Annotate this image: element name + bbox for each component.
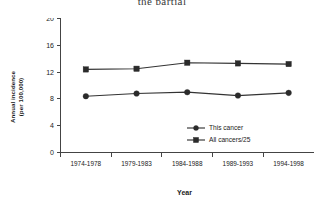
y-tick-label: 20 xyxy=(46,18,54,22)
data-point-circle xyxy=(235,93,241,99)
x-tick-label: 1989-1993 xyxy=(223,160,254,167)
data-point-square xyxy=(134,66,139,71)
y-tick-label: 4 xyxy=(50,122,54,129)
legend-marker-square xyxy=(193,137,198,142)
legend-marker-circle xyxy=(194,126,199,131)
data-point-square xyxy=(83,67,88,72)
data-point-square xyxy=(185,60,190,65)
x-axis-title: Year xyxy=(45,189,324,196)
series-layer xyxy=(83,60,291,99)
legend: This cancer All cancers/25 xyxy=(187,124,251,143)
data-point-circle xyxy=(134,91,140,97)
data-point-square xyxy=(286,61,291,66)
x-tick-group xyxy=(61,153,315,158)
y-axis-title: Annual incidence (per 100,000) xyxy=(6,42,28,152)
data-point-circle xyxy=(286,90,292,96)
data-point-circle xyxy=(184,89,190,95)
x-tick-label: 1984-1988 xyxy=(172,160,203,167)
figure: the partial Annual incidence (per 100,00… xyxy=(0,0,324,211)
y-axis-title-line2: (per 100,000) xyxy=(17,78,24,117)
y-tick-label: 0 xyxy=(50,149,54,156)
y-axis-title-line1: Annual incidence xyxy=(9,71,16,123)
data-point-square xyxy=(235,61,240,66)
y-tick-label: 16 xyxy=(46,42,54,49)
title-fragment: the partial xyxy=(0,0,324,5)
x-tick-label: 1994-1998 xyxy=(273,160,304,167)
plot-area: 20 16 12 8 4 0 1974-1978 1979-1983 1984-… xyxy=(46,18,314,170)
y-tick-label: 12 xyxy=(46,69,54,76)
x-tick-label: 1974-1978 xyxy=(71,160,102,167)
data-point-circle xyxy=(83,93,89,99)
y-tick-label: 8 xyxy=(50,95,54,102)
line-chart: 20 16 12 8 4 0 1974-1978 1979-1983 1984-… xyxy=(46,18,314,170)
x-tick-label: 1979-1983 xyxy=(121,160,152,167)
y-tick-group xyxy=(57,19,61,153)
legend-label-all-cancers: All cancers/25 xyxy=(209,136,251,143)
legend-label-this-cancer: This cancer xyxy=(209,124,244,131)
